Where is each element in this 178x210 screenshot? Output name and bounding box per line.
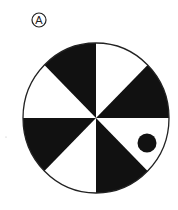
sector-wheel: [23, 43, 169, 193]
speck: [5, 136, 6, 137]
figure-label: A: [32, 13, 46, 27]
label-text: A: [35, 14, 43, 26]
marker-dot: [138, 134, 157, 153]
figure-canvas: A: [0, 0, 178, 210]
